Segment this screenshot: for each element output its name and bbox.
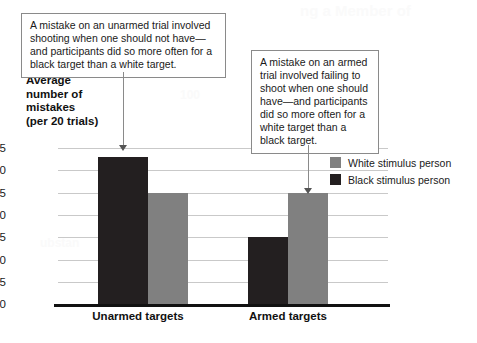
unarmed-callout-arrow-line <box>123 72 124 146</box>
legend-item-white-stimulus-person: White stimulus person <box>330 155 451 170</box>
armed-callout-arrow-head <box>304 188 312 194</box>
armed-callout: A mistake on an armed trial involved fai… <box>251 50 379 154</box>
page-bleed-text: ng a Member of <box>300 2 411 19</box>
page-bleed-text: 100 <box>180 88 200 102</box>
y-tick-label: 2.0 <box>0 210 6 222</box>
bar-armed-white-stimulus <box>288 193 328 304</box>
y-tick-label: 1.5 <box>0 232 6 244</box>
legend-swatch-icon <box>330 157 341 168</box>
legend-item-black-stimulus-person: Black stimulus person <box>330 172 451 187</box>
y-tick-label: 1.0 <box>0 255 6 267</box>
x-axis-baseline <box>54 304 390 307</box>
unarmed-callout: A mistake on an unarmed trial involved s… <box>21 13 226 78</box>
y-tick-label: 3.5 <box>0 143 6 155</box>
y-tick-label: 0.0 <box>0 299 6 311</box>
y-tick-label: 2.5 <box>0 188 6 200</box>
y-tick-label: 0.5 <box>0 277 6 289</box>
legend-label: White stimulus person <box>348 157 451 169</box>
bar-unarmed-white-stimulus <box>148 193 188 304</box>
legend-swatch-icon <box>330 174 341 185</box>
legend: White stimulus person Black stimulus per… <box>330 155 451 189</box>
y-tick-label: 3.0 <box>0 165 6 177</box>
bar-armed-black-stimulus <box>248 237 288 304</box>
x-axis-label-armed: Armed targets <box>228 310 348 322</box>
y-axis-title: Average number of mistakes (per 20 trial… <box>26 74 98 128</box>
bar-unarmed-black-stimulus <box>98 157 148 304</box>
bar-chart-figure: ng a Member of 100 ubstan Average number… <box>0 0 477 343</box>
legend-label: Black stimulus person <box>348 174 450 186</box>
armed-callout-arrow-line <box>308 145 309 189</box>
unarmed-callout-arrow-head <box>119 145 127 151</box>
x-axis-label-unarmed: Unarmed targets <box>78 310 198 322</box>
